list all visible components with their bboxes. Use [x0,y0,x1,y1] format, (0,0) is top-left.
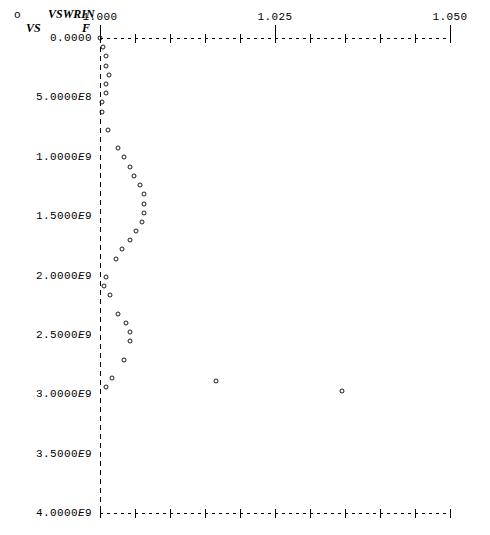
chart-canvas: o VSWRIN VS F 1.0001.0251.050 0.00005.00… [0,0,490,535]
y-axis-tick-label: 3.5000E9 [36,448,92,460]
data-point [107,293,112,298]
legend-marker-icon: o [14,10,21,21]
data-point [340,389,345,394]
data-point [142,201,147,206]
data-point [104,91,109,96]
x-axis-tick-label: 1.000 [82,11,117,23]
data-point [104,63,109,68]
axis-segment-bar [415,509,416,518]
data-point [114,256,119,261]
axis-segment-bar [345,34,346,43]
axis-segment-bar [415,34,416,43]
axis-segment-bar [310,34,311,43]
data-point [214,379,219,384]
axis-segment-bar [170,509,171,518]
data-point [104,54,109,59]
axis-segment-bar [205,509,206,518]
axis-segment-bar [450,34,451,43]
y-axis-tick-label: 4.0000E9 [36,507,92,519]
data-point [133,229,138,234]
axis-segment-bar [345,509,346,518]
data-point [104,385,109,390]
data-point [121,357,126,362]
data-point [128,238,133,243]
data-point [142,210,147,215]
axis-segment-bar [100,509,101,518]
x-axis-tick-mark [100,25,101,34]
data-point [100,109,105,114]
data-point [123,321,128,326]
data-point [107,72,112,77]
axis-segment-bar [135,34,136,43]
data-point [109,376,114,381]
y-axis-tick-label: 0.0000 [50,32,92,44]
x-axis-tick-label: 1.025 [257,11,292,23]
vs-label: VS [26,23,41,34]
y-axis-tick-label: 2.5000E9 [36,329,92,341]
x-axis-tick-mark [275,25,276,34]
data-point [128,339,133,344]
axis-segment-bar [170,34,171,43]
data-point [116,311,121,316]
axis-segment-bar [380,509,381,518]
data-point [140,219,145,224]
axis-segment-bar [380,34,381,43]
data-point [132,173,137,178]
data-point [121,155,126,160]
data-point [102,284,107,289]
axis-segment-bar [275,509,276,518]
data-point [100,100,105,105]
data-point [98,36,103,41]
data-point [142,192,147,197]
data-point [106,127,111,132]
data-point [104,275,109,280]
axis-segment-bar [135,509,136,518]
data-point [119,247,124,252]
axis-segment-bar [450,509,451,518]
data-point [128,164,133,169]
x-axis-tick-label: 1.050 [432,11,467,23]
axis-segment-bar [205,34,206,43]
axis-segment-bar [275,34,276,43]
data-point [104,81,109,86]
data-point [137,183,142,188]
data-point [116,146,121,151]
data-point [100,45,105,50]
axis-segment-bar [240,509,241,518]
axis-segment-bar [310,509,311,518]
axis-segment-bar [240,34,241,43]
y-axis-tick-label: 1.0000E9 [36,151,92,163]
data-point [128,330,133,335]
y-axis-tick-label: 5.0000E8 [36,91,92,103]
y-axis-tick-label: 2.0000E9 [36,270,92,282]
y-axis-tick-label: 3.0000E9 [36,388,92,400]
y-axis-tick-label: 1.5000E9 [36,210,92,222]
x-axis-tick-mark [450,25,451,34]
